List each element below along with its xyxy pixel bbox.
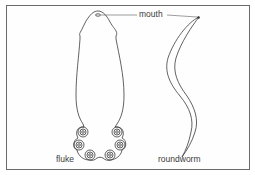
fluke-body-outline: [76, 11, 124, 127]
roundworm-label: roundworm: [158, 155, 201, 164]
sucker-2: [74, 140, 84, 150]
mouth-label: mouth: [139, 10, 163, 19]
sucker-3: [85, 150, 95, 160]
sucker-6: [105, 150, 115, 160]
sucker-5: [115, 140, 125, 150]
fluke-label: fluke: [56, 155, 74, 164]
roundworm-mouth: [198, 17, 200, 19]
fluke-illustration: [74, 11, 126, 160]
roundworm-outer-outline: [167, 17, 199, 157]
roundworm-illustration: [167, 17, 200, 158]
fluke-roundworm-diagram: [0, 0, 255, 175]
fluke-suckers: [74, 127, 125, 160]
sucker-1: [78, 127, 88, 137]
fluke-mouth: [96, 14, 101, 16]
sucker-4: [112, 127, 122, 137]
roundworm-inner-outline: [175, 17, 199, 157]
